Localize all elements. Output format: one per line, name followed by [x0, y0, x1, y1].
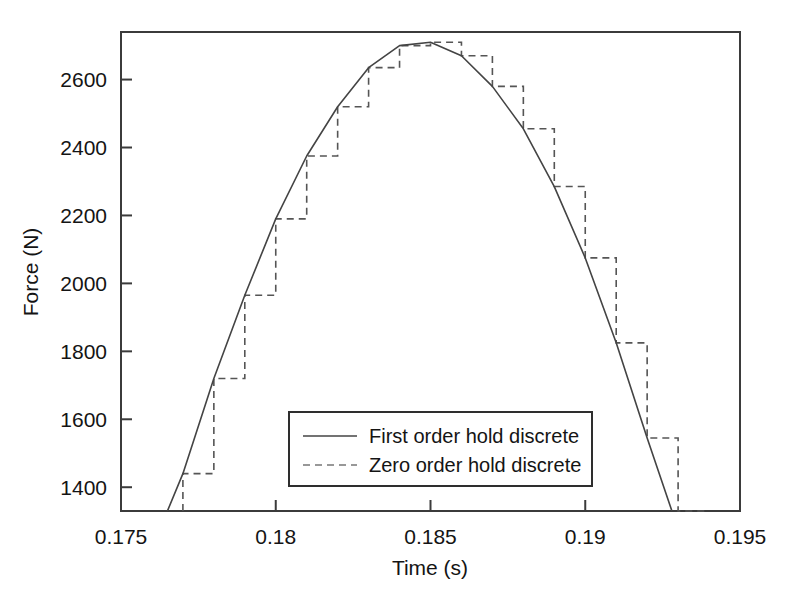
legend-label-first-order-hold: First order hold discrete: [369, 425, 579, 447]
chart-legend[interactable]: First order hold discrete Zero order hol…: [289, 412, 592, 486]
x-axis-title: Time (s): [392, 556, 468, 579]
figure-container: 1400160018002000220024002600 0.1750.180.…: [0, 0, 797, 595]
y-tick-label: 2600: [60, 68, 107, 91]
x-tick-label: 0.185: [404, 525, 457, 548]
x-tick-label: 0.18: [255, 525, 296, 548]
x-tick-label: 0.175: [95, 525, 148, 548]
y-tick-label: 1600: [60, 408, 107, 431]
x-tick-label: 0.19: [565, 525, 606, 548]
legend-label-zero-order-hold: Zero order hold discrete: [369, 454, 581, 476]
x-axis-ticks: 0.1750.180.1850.190.195: [95, 500, 767, 548]
y-tick-label: 2000: [60, 272, 107, 295]
y-tick-label: 1400: [60, 476, 107, 499]
y-tick-label: 2400: [60, 136, 107, 159]
y-axis-title: Force (N): [19, 228, 42, 317]
y-tick-label: 1800: [60, 340, 107, 363]
y-tick-label: 2200: [60, 204, 107, 227]
force-time-chart: 1400160018002000220024002600 0.1750.180.…: [0, 0, 797, 595]
x-tick-label: 0.195: [714, 525, 767, 548]
